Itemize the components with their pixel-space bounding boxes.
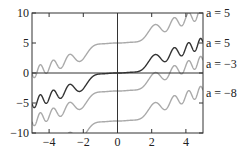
curve-label: a = −3 <box>206 57 237 71</box>
y-tick-label: −10 <box>10 126 29 140</box>
curve-label: a = 5 <box>206 36 230 50</box>
curve-labels: a = 5a = 5a = −3a = −8 <box>206 6 237 100</box>
curve-label: a = −8 <box>206 86 237 100</box>
x-tick-label: 4 <box>183 135 189 149</box>
x-tick-label: −4 <box>43 135 56 149</box>
y-tick-label: −5 <box>16 96 29 110</box>
x-tick-label: −2 <box>77 135 90 149</box>
y-tick-label: 0 <box>23 66 29 80</box>
chart: −4−2024−10−50510 a = 5a = 5a = −3a = −8 <box>0 0 250 150</box>
x-tick-label: 2 <box>149 135 155 149</box>
curve-label: a = 5 <box>206 6 230 20</box>
ticks: −4−2024−10−50510 <box>10 6 203 149</box>
y-tick-label: 5 <box>23 36 29 50</box>
y-tick-label: 10 <box>17 6 29 20</box>
x-tick-label: 0 <box>115 135 121 149</box>
